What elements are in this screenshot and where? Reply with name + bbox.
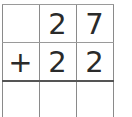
cell-r0-c0 — [2, 4, 39, 42]
cell-r1-c2-ones-digit: 2 — [76, 43, 113, 81]
plus-sign: + — [2, 43, 39, 81]
answer-cell-c0[interactable] — [2, 82, 39, 117]
answer-cell-ones[interactable] — [76, 82, 113, 117]
cell-r0-c1-tens-digit: 2 — [39, 5, 76, 43]
cell-r1-c1-tens-digit: 2 — [39, 43, 76, 81]
grid-line-vertical — [113, 4, 114, 117]
cell-r0-c2-ones-digit: 7 — [76, 5, 113, 43]
answer-cell-tens[interactable] — [39, 82, 76, 117]
